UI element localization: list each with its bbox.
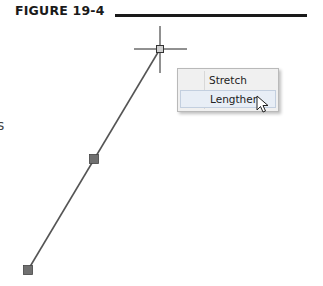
menu-item-stretch[interactable]: Stretch	[180, 71, 276, 89]
start-grip[interactable]	[24, 266, 33, 275]
menu-item-label: Stretch	[209, 71, 247, 89]
drawing-canvas[interactable]	[0, 0, 323, 286]
end-grip-hover[interactable]	[157, 46, 164, 53]
arrow-cursor-icon	[256, 95, 270, 115]
midpoint-grip[interactable]	[90, 155, 99, 164]
menu-item-label: Lengthen	[210, 91, 259, 107]
